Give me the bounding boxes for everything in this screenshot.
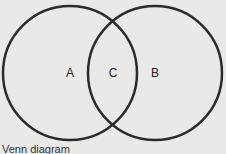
label-b: B <box>151 66 159 80</box>
caption: Venn diagram <box>2 143 70 154</box>
label-a: A <box>66 66 74 80</box>
label-c: C <box>109 66 118 80</box>
venn-diagram: A C B <box>0 0 226 154</box>
